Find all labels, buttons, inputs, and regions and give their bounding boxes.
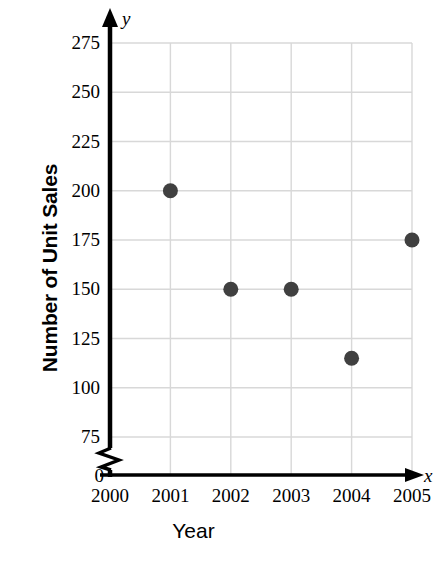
data-point-marker	[284, 282, 299, 297]
horizontal-gridlines	[110, 43, 412, 437]
vertical-gridlines	[170, 43, 412, 475]
scatter-chart: Number of Unit Sales 2752502252001751501…	[0, 0, 447, 566]
data-point-marker	[405, 233, 420, 248]
plot-area	[0, 0, 447, 566]
data-point-marker	[223, 282, 238, 297]
data-point-marker	[344, 351, 359, 366]
axis-lines	[99, 8, 424, 482]
data-point-marker	[163, 183, 178, 198]
